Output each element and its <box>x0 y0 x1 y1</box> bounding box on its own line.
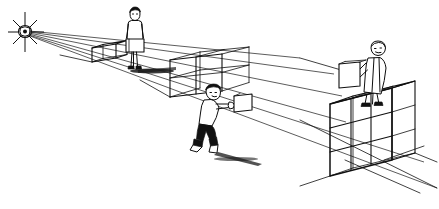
ground-accents <box>60 55 170 97</box>
ray-lower-edge <box>29 34 346 122</box>
figure-carrying-right <box>339 41 386 107</box>
perspective-illustration <box>0 0 439 209</box>
figure-standing-midground <box>126 7 176 74</box>
pushed-box <box>234 94 252 112</box>
carried-box <box>339 62 360 88</box>
cube-small-far <box>92 41 127 63</box>
torso <box>127 21 143 41</box>
ray-mid-edge <box>29 33 342 96</box>
figure-crouching-foreground <box>190 84 262 166</box>
torso <box>199 100 219 127</box>
ray-top-wall <box>29 31 300 58</box>
torso <box>364 58 386 95</box>
